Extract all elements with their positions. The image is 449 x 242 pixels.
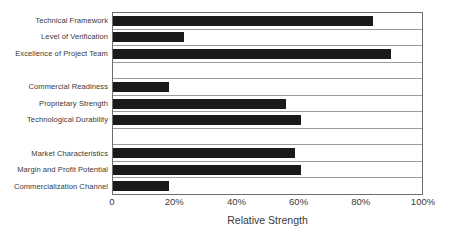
category-label: Level of Verification <box>41 33 108 41</box>
category-label: Commercialization Channel <box>14 183 108 191</box>
category-label-row: Technical Framework <box>0 12 112 29</box>
category-label-row: Technological Durability <box>0 112 112 129</box>
bar <box>113 115 301 125</box>
plot-bar-row <box>113 145 422 162</box>
plot-area <box>112 12 423 195</box>
bar <box>113 99 286 109</box>
bar <box>113 49 391 59</box>
plot-bar-row <box>113 162 422 179</box>
bar <box>113 32 184 42</box>
plot-spacer-row <box>113 129 422 146</box>
x-axis-title: Relative Strength <box>112 214 423 226</box>
plot-bar-row <box>113 178 422 194</box>
x-axis-tick: 100% <box>411 196 435 207</box>
category-label-row: Margin and Profit Potential <box>0 162 112 179</box>
bar <box>113 181 169 191</box>
bar <box>113 148 295 158</box>
x-axis-tick: 20% <box>165 196 184 207</box>
plot-bar-row <box>113 30 422 47</box>
category-label-row: Commercial Readiness <box>0 79 112 96</box>
plot-bar-row <box>113 112 422 129</box>
plot-bar-row <box>113 79 422 96</box>
category-label-row: Market Characteristics <box>0 145 112 162</box>
category-spacer <box>0 128 112 145</box>
category-label: Commercial Readiness <box>29 83 109 91</box>
category-label: Market Characteristics <box>31 150 108 158</box>
category-label: Proprietary Strength <box>39 100 108 108</box>
plot-spacer-row <box>113 63 422 80</box>
category-label-row: Proprietary Strength <box>0 95 112 112</box>
x-axis-tick: 80% <box>351 196 370 207</box>
category-label-row: Level of Verification <box>0 29 112 46</box>
category-label: Margin and Profit Potential <box>17 166 108 174</box>
x-axis-tick-labels: 020%40%60%80%100% <box>112 196 423 210</box>
category-label-row: Excellence of Project Team <box>0 45 112 62</box>
x-axis-tick: 0 <box>109 196 114 207</box>
x-axis-tick: 60% <box>289 196 308 207</box>
plot-bar-row <box>113 46 422 63</box>
plot-bar-row <box>113 96 422 113</box>
bar <box>113 82 169 92</box>
bar-chart-figure: Technical FrameworkLevel of Verification… <box>0 0 449 242</box>
category-label: Excellence of Project Team <box>15 50 108 58</box>
plot-rows <box>113 13 422 194</box>
x-axis-tick: 40% <box>227 196 246 207</box>
category-label: Technological Durability <box>27 116 108 124</box>
category-label-row: Commercialization Channel <box>0 178 112 195</box>
bar <box>113 16 373 26</box>
bar <box>113 165 301 175</box>
plot-bar-row <box>113 13 422 30</box>
category-axis: Technical FrameworkLevel of Verification… <box>0 12 112 195</box>
category-spacer <box>0 62 112 79</box>
category-label: Technical Framework <box>35 17 108 25</box>
